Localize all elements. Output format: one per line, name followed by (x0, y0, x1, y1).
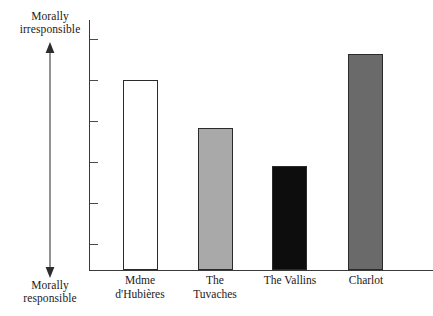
bar-chart-plot (89, 20, 433, 271)
double-headed-arrow-icon (36, 40, 64, 280)
category-label-line2: Tuvaches (163, 288, 267, 302)
axis-bottom-label-line2: responsible (2, 292, 98, 305)
axis-bottom-label: Morally responsible (2, 279, 98, 305)
bar-the-vallins[interactable] (272, 166, 307, 270)
axis-top-label-line2: irresponsible (2, 23, 98, 36)
y-axis-tick (90, 244, 98, 245)
axis-bottom-label-line1: Morally (2, 279, 98, 292)
axis-top-label: Morally irresponsible (2, 10, 98, 36)
y-axis-line (89, 20, 90, 271)
y-axis-tick (90, 203, 98, 204)
bar-the-tuvaches[interactable] (198, 128, 233, 270)
y-axis-tick (90, 80, 98, 81)
y-axis-tick (90, 121, 98, 122)
bar-charlot[interactable] (348, 54, 383, 270)
category-label-charlot: Charlot (314, 274, 418, 288)
bar-chart-figure: Morally irresponsible Morally responsibl… (0, 0, 433, 316)
category-label-line1: Charlot (314, 274, 418, 288)
y-axis-tick (90, 39, 98, 40)
y-axis-tick (90, 162, 98, 163)
bar-mdme-dhubieres[interactable] (123, 80, 158, 270)
x-axis-line (89, 270, 433, 271)
axis-top-label-line1: Morally (2, 10, 98, 23)
